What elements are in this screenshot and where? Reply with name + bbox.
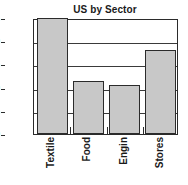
x-axis-tick-mark [143,127,144,134]
bar [37,18,68,134]
x-axis-label: Textile [33,137,69,185]
x-axis-tick-mark [70,127,71,134]
x-axis-tick-mark [107,127,108,134]
y-axis-tick-mark [1,42,5,43]
x-axis-label-text: Textile [46,137,56,168]
y-axis-tick-mark [1,19,5,20]
x-axis-label-text: Stores [155,137,165,168]
y-axis-tick-mark [1,89,5,90]
bar [73,81,104,134]
x-axis-label: Food [69,137,105,185]
x-axis-label: Engin [106,137,142,185]
bar [145,50,176,134]
chart-title: US by Sector [0,4,188,16]
y-axis-tick-mark [1,65,5,66]
bar [109,85,140,134]
plot-area [33,19,178,135]
y-axis-tick-mark [1,135,5,136]
bar-chart: US by Sector 0.00.51.01.52.02.5 TextileF… [0,0,188,185]
y-axis-tick-mark [1,112,5,113]
x-axis-label-text: Engin [119,137,129,165]
x-axis-labels: TextileFoodEnginStores [33,137,178,185]
x-axis-label: Stores [142,137,178,185]
x-axis-label-text: Food [82,137,92,161]
